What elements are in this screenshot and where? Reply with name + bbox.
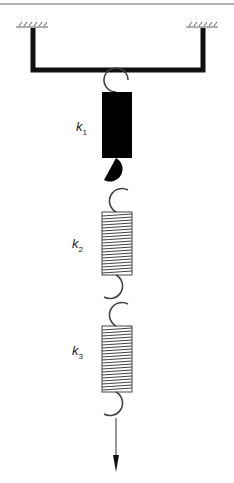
spring-label-k2: k2 bbox=[72, 236, 83, 254]
spring-label-k1: k1 bbox=[76, 119, 87, 137]
spring-label-k3: k3 bbox=[72, 343, 83, 361]
force-arrow-head bbox=[113, 455, 119, 472]
ground-right bbox=[186, 22, 218, 27]
spring-diagram bbox=[0, 0, 234, 483]
support-bracket bbox=[33, 28, 203, 70]
ground-left bbox=[16, 22, 48, 27]
spring-2 bbox=[102, 302, 132, 415]
